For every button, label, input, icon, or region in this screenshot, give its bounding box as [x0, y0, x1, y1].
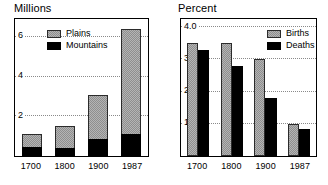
legend-right: Births Deaths	[267, 29, 315, 50]
bar-group-1700	[15, 19, 48, 156]
legend-swatch-plains	[47, 30, 61, 38]
bar-deaths-1987[interactable]	[299, 129, 310, 156]
bar-segment-mountains-1800	[55, 148, 75, 156]
bar-segment-mountains-1987	[121, 134, 141, 156]
legend-label-births: Births	[286, 29, 309, 38]
chart-title-right: Percent	[178, 2, 217, 14]
bar-segment-plains-1900	[88, 95, 108, 139]
plot-frame-left: 2 4 6	[14, 18, 149, 157]
legend-label-deaths: Deaths	[286, 41, 315, 50]
legend-item-mountains[interactable]: Mountains	[47, 41, 108, 50]
bar-group-1987	[115, 19, 148, 156]
xlabel-left-1800: 1800	[48, 159, 82, 175]
bar-group-right-1800	[215, 19, 249, 156]
plot-area-left: 2 4 6	[15, 19, 148, 156]
plot-area-right: 1.0 2.0 3.0 4.0	[181, 19, 316, 156]
bar-deaths-1900[interactable]	[265, 98, 276, 156]
xlabel-right-1700: 1700	[180, 159, 214, 175]
legend-swatch-mountains	[47, 42, 61, 50]
bar-births-1800[interactable]	[221, 43, 232, 156]
bar-segment-plains-1700	[22, 134, 42, 147]
bar-segment-mountains-1700	[22, 147, 42, 156]
bar-segment-plains-1987	[121, 29, 141, 134]
x-axis-right: 1700 1800 1900 1987	[180, 159, 317, 175]
bar-births-1900[interactable]	[254, 59, 265, 156]
legend-swatch-births	[267, 30, 281, 38]
bar-deaths-1800[interactable]	[232, 66, 243, 156]
legend-swatch-deaths	[267, 42, 281, 50]
bar-group-right-1700	[181, 19, 215, 156]
bar-deaths-1700[interactable]	[198, 50, 209, 156]
stacked-bar-1900[interactable]	[88, 95, 108, 156]
stacked-bar-1700[interactable]	[22, 134, 42, 156]
legend-item-births[interactable]: Births	[267, 29, 315, 38]
xlabel-left-1900: 1900	[82, 159, 116, 175]
xlabel-right-1800: 1800	[214, 159, 248, 175]
xlabel-right-1987: 1987	[283, 159, 317, 175]
xlabel-left-1700: 1700	[14, 159, 48, 175]
legend-label-plains: Plains	[66, 29, 91, 38]
legend-label-mountains: Mountains	[66, 41, 108, 50]
chart-panel-millions: Millions 2 4 6	[0, 0, 164, 185]
stacked-bar-1800[interactable]	[55, 126, 75, 156]
x-axis-left: 1700 1800 1900 1987	[14, 159, 149, 175]
bar-segment-plains-1800	[55, 126, 75, 148]
stacked-bar-1987[interactable]	[121, 29, 141, 156]
chart-panel-percent: Percent 1.0 2.0 3.0 4.0	[164, 0, 328, 185]
xlabel-right-1900: 1900	[249, 159, 283, 175]
bar-births-1987[interactable]	[288, 124, 299, 156]
figure-container: Millions 2 4 6	[0, 0, 328, 185]
xlabel-left-1987: 1987	[115, 159, 149, 175]
legend-item-plains[interactable]: Plains	[47, 29, 108, 38]
plot-frame-right: 1.0 2.0 3.0 4.0	[180, 18, 317, 157]
bar-segment-mountains-1900	[88, 139, 108, 156]
bar-births-1700[interactable]	[187, 43, 198, 156]
legend-left: Plains Mountains	[47, 29, 108, 50]
legend-item-deaths[interactable]: Deaths	[267, 41, 315, 50]
chart-title-left: Millions	[14, 2, 51, 14]
